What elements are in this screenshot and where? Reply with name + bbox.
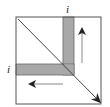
column-index-label: i [66, 4, 69, 15]
matrix-diagram [0, 0, 110, 107]
row-index-label: i [7, 64, 10, 75]
diagonal-arrow [18, 19, 99, 101]
